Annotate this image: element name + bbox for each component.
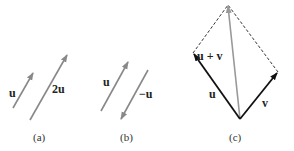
panel-c: u + v u v (c) — [193, 5, 278, 144]
caption-a: (a) — [33, 131, 46, 144]
label-u: u — [103, 75, 110, 89]
label-neg-u: −u — [139, 87, 153, 101]
caption-c: (c) — [229, 131, 242, 144]
label-2u: 2u — [52, 82, 65, 96]
vector-u-arrow — [194, 54, 240, 119]
dashed-edge-right — [228, 5, 278, 72]
dashed-edge-left — [193, 5, 228, 53]
label-u: u — [9, 86, 16, 100]
label-v: v — [262, 96, 268, 110]
panel-b: u −u (b) — [101, 62, 153, 144]
label-u-plus-v: u + v — [197, 49, 223, 63]
panel-a: u 2u (a) — [9, 55, 67, 144]
label-u: u — [209, 87, 216, 101]
vector-v-arrow — [240, 73, 277, 119]
caption-b: (b) — [120, 131, 133, 144]
vector-u-arrow — [13, 73, 33, 108]
vector-sum-arrow — [228, 6, 240, 119]
vector-diagram: u 2u (a) u −u (b) u + v u v (c) — [0, 0, 294, 151]
